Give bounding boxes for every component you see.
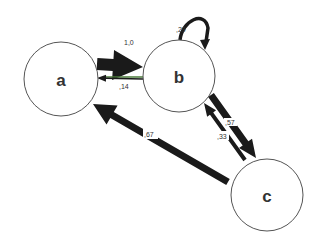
transition-diagram: a b c 1,0 ,14 ,29 ,57 ,33 ,67 <box>0 0 323 238</box>
node-b-label: b <box>174 68 184 87</box>
node-b[interactable]: b <box>143 40 215 112</box>
node-a[interactable]: a <box>24 42 98 116</box>
edge-label-b-a: ,14 <box>119 83 129 90</box>
edge-label-c-b: ,33 <box>217 133 227 140</box>
node-a-label: a <box>56 71 66 90</box>
node-c-label: c <box>262 187 271 206</box>
edge-a-b[interactable] <box>97 50 143 80</box>
nodes-layer: a b c <box>24 40 303 231</box>
edge-label-b-b: ,29 <box>176 26 186 33</box>
node-c[interactable]: c <box>231 159 303 231</box>
edge-label-c-a: ,67 <box>144 131 154 138</box>
edge-c-a[interactable] <box>93 104 230 185</box>
edge-label-b-c: ,57 <box>225 119 235 126</box>
edge-label-a-b: 1,0 <box>124 39 134 46</box>
